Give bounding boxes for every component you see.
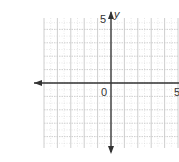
y-axis-label: y bbox=[114, 9, 120, 20]
coordinate-plane bbox=[0, 0, 179, 162]
x-axis-left-arrow-icon bbox=[34, 80, 42, 86]
axes bbox=[34, 11, 179, 154]
y-axis-down-arrow-icon bbox=[108, 146, 114, 154]
origin-label: 0 bbox=[101, 87, 107, 98]
x-tick-label-5: 5 bbox=[174, 87, 179, 98]
y-tick-label-5: 5 bbox=[100, 14, 106, 25]
